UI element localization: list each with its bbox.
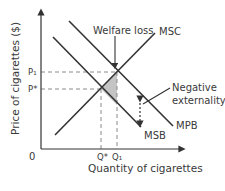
negative-externality-diagram: Price of cigarettes ($) Quantity of ciga…	[0, 0, 225, 191]
origin-label: 0	[29, 151, 35, 162]
x-axis-label: Quantity of cigarettes	[88, 162, 203, 174]
msc-label: MSC	[159, 26, 181, 37]
pstar-label: P*	[28, 84, 37, 94]
msb-label: MSB	[144, 130, 166, 141]
externality-label: externality	[172, 95, 225, 106]
p1-label: P₁	[28, 67, 37, 77]
externality-leader-line	[143, 88, 170, 104]
y-axis-label: Price of cigarettes ($)	[9, 22, 21, 135]
welfare-loss-label: Welfare loss	[93, 25, 153, 36]
q1-label: Q₁	[112, 152, 122, 162]
mpb-label: MPB	[176, 120, 198, 131]
qstar-label: Q*	[97, 152, 108, 162]
negative-label: Negative	[172, 82, 217, 93]
msb-curve	[53, 37, 141, 127]
mpb-curve	[69, 21, 173, 126]
